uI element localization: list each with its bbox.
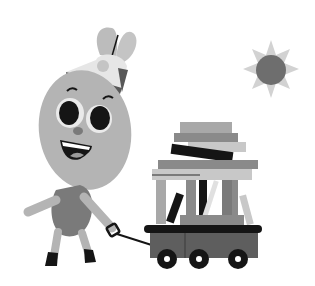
illustration [0,0,315,286]
wagon [144,122,262,269]
sun-icon [243,40,299,98]
character [28,27,139,266]
